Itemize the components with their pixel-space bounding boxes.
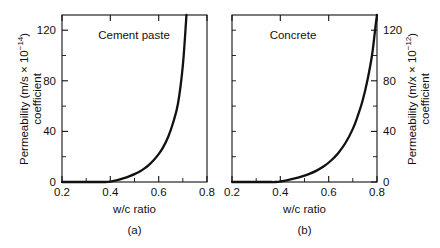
panel-b-xtick-0: 0.2 bbox=[224, 186, 240, 198]
panel-a-cement-paste: 0.2 0.4 0.6 0.8 0 40 80 120 Cement paste… bbox=[0, 0, 220, 248]
figure-permeability-vs-wc-ratio: 0.2 0.4 0.6 0.8 0 40 80 120 Cement paste… bbox=[0, 0, 440, 248]
panel-a-y-axis-title-exponent: −14 bbox=[16, 37, 25, 51]
panel-b-ytick-3: 120 bbox=[383, 24, 402, 36]
panel-a-y-axis-title-base: 10 bbox=[18, 50, 30, 66]
panel-b-y-axis-title: Permeability (m/x × 10−12) coefficient bbox=[402, 14, 432, 184]
panel-a-xtick-2: 0.6 bbox=[151, 186, 167, 198]
panel-b-y-axis-title-exponent: −12 bbox=[404, 37, 413, 51]
panel-b-xtick-1: 0.4 bbox=[272, 186, 289, 198]
panel-a-xtick-0: 0.2 bbox=[54, 186, 70, 198]
panel-b-ytick-0: 0 bbox=[383, 176, 389, 188]
panel-a-caption: (a) bbox=[62, 224, 207, 236]
panel-a-y-axis-title-line2: coefficient bbox=[31, 14, 44, 184]
panel-a-y-axis-title-suffix: ) bbox=[18, 33, 30, 37]
panel-a-ytick-1: 40 bbox=[43, 125, 56, 137]
panel-b-y-axis-title-times: × bbox=[406, 66, 418, 73]
panel-b-y-minor-ticks bbox=[373, 56, 377, 157]
panel-b-y-left-minor-ticks bbox=[232, 30, 236, 157]
panel-a-xtick-1: 0.4 bbox=[102, 186, 119, 198]
panel-b-caption: (b) bbox=[232, 224, 377, 236]
panel-a-ytick-2: 80 bbox=[43, 75, 56, 87]
panel-b-concrete: 0.2 0.4 0.6 0.8 0 40 80 120 Concrete Per… bbox=[215, 0, 440, 248]
panel-a-y-minor-ticks bbox=[62, 56, 66, 157]
panel-b-y-axis-title-base: 10 bbox=[406, 50, 418, 66]
panel-a-xtick-3: 0.8 bbox=[199, 186, 215, 198]
panel-b-ytick-1: 40 bbox=[383, 125, 396, 137]
panel-b-xtick-2: 0.6 bbox=[321, 186, 337, 198]
panel-b-y-axis-title-prefix: Permeability (m/x bbox=[406, 73, 418, 165]
panel-a-title: Cement paste bbox=[98, 29, 170, 41]
panel-a-y-axis-title-prefix: Permeability (m/s bbox=[18, 73, 30, 165]
panel-a-ytick-0: 0 bbox=[50, 176, 56, 188]
panel-b-title: Concrete bbox=[270, 29, 317, 41]
panel-a-y-axis-title-times: × bbox=[18, 66, 30, 73]
panel-b-ytick-2: 80 bbox=[383, 75, 396, 87]
panel-b-x-axis-title: w/c ratio bbox=[232, 203, 377, 215]
panel-a-y-axis-title: Permeability (m/s × 10−14) coefficient bbox=[14, 14, 44, 184]
panel-b-y-axis-title-line2: coefficient bbox=[419, 14, 432, 184]
panel-a-x-axis-title: w/c ratio bbox=[62, 203, 207, 215]
panel-b-y-axis-title-suffix: ) bbox=[406, 33, 418, 37]
